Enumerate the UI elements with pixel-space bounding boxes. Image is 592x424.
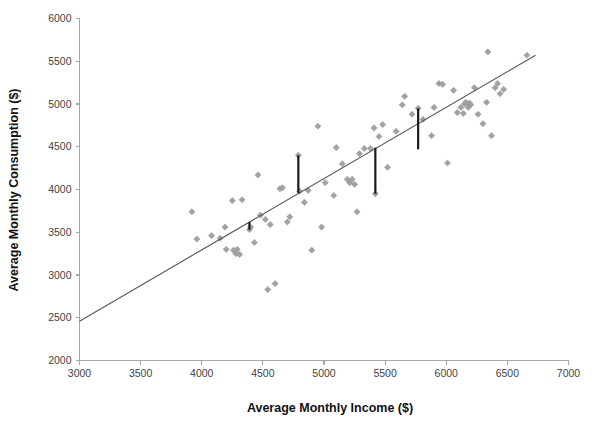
data-point — [194, 236, 200, 242]
data-point — [222, 224, 228, 230]
x-tick-label: 5000 — [312, 367, 336, 379]
data-points-layer — [189, 49, 530, 293]
x-tick-label: 3000 — [68, 367, 92, 379]
x-tick-label: 5500 — [373, 367, 397, 379]
y-tick-label: 2500 — [48, 311, 72, 323]
x-tick-label: 7000 — [557, 367, 581, 379]
data-point — [255, 172, 261, 178]
y-axis-title: Average Monthly Consumption ($) — [7, 88, 21, 291]
data-point — [272, 280, 278, 286]
data-point — [361, 145, 367, 151]
data-point — [483, 99, 489, 105]
data-point — [318, 224, 324, 230]
data-point — [223, 246, 229, 252]
regression-line — [80, 55, 536, 321]
chart-canvas: 200025003000350040004500500055006000 300… — [0, 0, 592, 424]
y-tick-label: 4500 — [48, 140, 72, 152]
data-point — [409, 111, 415, 117]
data-point — [301, 199, 307, 205]
y-tick-label: 5000 — [48, 98, 72, 110]
data-point — [460, 110, 466, 116]
data-point — [376, 133, 382, 139]
y-tick-label: 3000 — [48, 269, 72, 281]
y-tick-label: 5500 — [48, 55, 72, 67]
data-point — [485, 49, 491, 55]
data-point — [262, 216, 268, 222]
y-tick-label: 6000 — [48, 12, 72, 24]
data-point — [354, 209, 360, 215]
residual-lines-layer — [249, 108, 418, 229]
data-point — [431, 104, 437, 110]
data-point — [428, 133, 434, 139]
data-point — [454, 109, 460, 115]
data-point — [331, 192, 337, 198]
data-point — [402, 93, 408, 99]
data-point — [501, 86, 507, 92]
data-point — [267, 221, 273, 227]
data-point — [399, 102, 405, 108]
data-point — [309, 247, 315, 253]
data-point — [384, 164, 390, 170]
data-point — [251, 239, 257, 245]
data-point — [229, 198, 235, 204]
x-tick-label: 4500 — [251, 367, 275, 379]
x-tick-label: 6000 — [435, 367, 459, 379]
data-point — [356, 150, 362, 156]
y-tick-label: 2000 — [48, 354, 72, 366]
regression-line-layer — [80, 55, 536, 321]
data-point — [239, 197, 245, 203]
x-tick-label: 3500 — [129, 367, 153, 379]
x-axis: 300035004000450050005500600065007000 — [68, 361, 581, 379]
scatter-chart: 200025003000350040004500500055006000 300… — [0, 0, 592, 424]
data-point — [189, 209, 195, 215]
data-point — [480, 121, 486, 127]
data-point — [265, 286, 271, 292]
data-point — [524, 52, 530, 58]
x-tick-label: 6500 — [496, 367, 520, 379]
data-point — [322, 180, 328, 186]
x-axis-title: Average Monthly Income ($) — [247, 401, 413, 415]
data-point — [371, 125, 377, 131]
data-point — [333, 145, 339, 151]
data-point — [444, 160, 450, 166]
data-point — [393, 128, 399, 134]
y-tick-label: 4000 — [48, 183, 72, 195]
y-tick-label: 3500 — [48, 226, 72, 238]
data-point — [497, 91, 503, 97]
data-point — [315, 123, 321, 129]
data-point — [208, 233, 214, 239]
data-point — [380, 121, 386, 127]
y-axis: 200025003000350040004500500055006000 — [48, 12, 79, 366]
data-point — [488, 133, 494, 139]
data-point — [450, 87, 456, 93]
data-point — [475, 111, 481, 117]
x-tick-label: 4000 — [190, 367, 214, 379]
